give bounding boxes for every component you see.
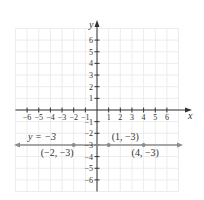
x-tick-label: 5 (153, 113, 157, 122)
y-tick-label: −6 (84, 176, 93, 185)
y-tick-label: 2 (89, 83, 93, 92)
point-label: (4, −3) (132, 147, 159, 159)
x-tick-label: 6 (165, 113, 169, 122)
y-tick-label: −5 (84, 164, 93, 173)
data-point (107, 143, 111, 147)
y-tick-label: 3 (89, 71, 93, 80)
x-tick-label: −5 (34, 113, 43, 122)
y-tick-label: −3 (84, 141, 93, 150)
x-tick-label: 1 (107, 113, 111, 122)
coordinate-plane: xy−6−5−4−3−2−1123456−6−5−4−2−1123456−3y … (0, 0, 204, 200)
point-label: (1, −3) (112, 131, 139, 143)
equation-label: y = −3 (27, 131, 56, 142)
x-tick-label: −6 (23, 113, 32, 122)
y-axis-arrow-icon (95, 20, 100, 27)
point-label: (−2, −3) (41, 147, 74, 159)
x-tick-label: 4 (142, 113, 146, 122)
x-axis-label: x (187, 110, 193, 121)
y-tick-label: −1 (84, 118, 93, 127)
y-tick-label: 5 (89, 48, 93, 57)
x-tick-label: −3 (58, 113, 67, 122)
y-axis-label: y (88, 19, 94, 30)
x-tick-label: −2 (69, 113, 78, 122)
line-left-arrow-icon (14, 142, 20, 147)
y-tick-label: −2 (84, 129, 93, 138)
x-tick-label: −4 (46, 113, 55, 122)
y-tick-label: 6 (89, 36, 93, 45)
y-tick-label: 1 (89, 94, 93, 103)
line-right-arrow-icon (177, 142, 183, 147)
y-tick-label: 4 (89, 59, 93, 68)
x-tick-label: 2 (118, 113, 122, 122)
y-tick-label: −4 (84, 153, 93, 162)
x-tick-label: 3 (130, 113, 134, 122)
